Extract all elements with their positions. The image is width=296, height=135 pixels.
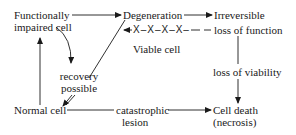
node-normal-cell: Normal cell [14, 104, 66, 116]
node-loss-of-viability: loss of viability [213, 66, 281, 78]
label-line: lesion [122, 116, 169, 128]
label-line: recovery [58, 70, 100, 82]
label-line: possible [58, 82, 100, 94]
label-line: catastrophic [116, 104, 169, 116]
label-line: Cell death [213, 104, 258, 116]
label-line: (necrosis) [213, 116, 258, 128]
node-cell-death-necrosis: Cell death (necrosis) [213, 104, 258, 128]
label-line: loss of function [214, 24, 282, 36]
node-degeneration: Degeneration [123, 9, 182, 21]
node-irreversible-loss-of-function: Irreversible loss of function [214, 9, 282, 36]
node-recovery-possible: recovery possible [58, 70, 100, 94]
node-functionally-impaired-cell: Functionally impaired cell [14, 9, 72, 33]
node-catastrophic-lesion: catastrophic lesion [116, 104, 169, 128]
cell-injury-diagram: Functionally impaired cell Degeneration … [0, 0, 296, 135]
label-line: impaired cell [14, 21, 72, 33]
blocked-arrow-crosses: X–X–X–X– [132, 24, 191, 36]
label-line: Irreversible [214, 9, 282, 21]
node-viable-cell: Viable cell [133, 43, 180, 55]
label-line: Functionally [14, 9, 72, 21]
